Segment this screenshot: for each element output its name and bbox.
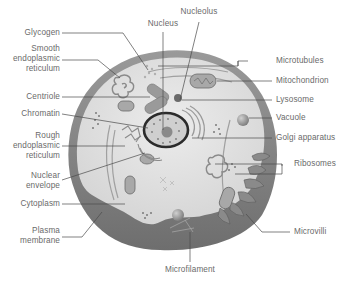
label-smooth-er-1: Smooth [0, 44, 60, 54]
label-smooth-er-2: endoplasmic [0, 54, 60, 64]
label-nucleus: Nucleus [138, 19, 188, 29]
label-nuclear-envelope-2: envelope [0, 181, 60, 191]
label-rough-er-1: Rough [0, 131, 60, 141]
label-smooth-er-3: reticulum [0, 64, 60, 74]
label-rough-er-3: reticulum [0, 151, 60, 161]
label-microtubules: Microtubules [276, 56, 324, 66]
label-chromatin: Chromatin [0, 109, 60, 119]
label-nuclear-envelope-1: Nuclear [0, 171, 60, 181]
label-rough-er-2: endoplasmic [0, 141, 60, 151]
nucleus [144, 113, 188, 147]
label-plasma-membrane-2: membrane [0, 236, 60, 246]
label-plasma-membrane-1: Plasma [0, 226, 60, 236]
label-cytoplasm: Cytoplasm [0, 199, 60, 209]
label-mitochondrion: Mitochondrion [276, 76, 329, 86]
label-nucleolus: Nucleolus [174, 7, 224, 17]
label-centriole: Centriole [0, 92, 60, 102]
label-lysosome: Lysosome [276, 95, 314, 105]
label-vacuole: Vacuole [276, 113, 306, 123]
label-microfilament: Microfilament [160, 265, 220, 275]
label-ribosomes: Ribosomes [294, 159, 336, 169]
label-microvilli: Microvilli [294, 227, 326, 237]
label-glycogen: Glycogen [0, 28, 60, 38]
label-golgi-apparatus: Golgi apparatus [276, 133, 335, 143]
